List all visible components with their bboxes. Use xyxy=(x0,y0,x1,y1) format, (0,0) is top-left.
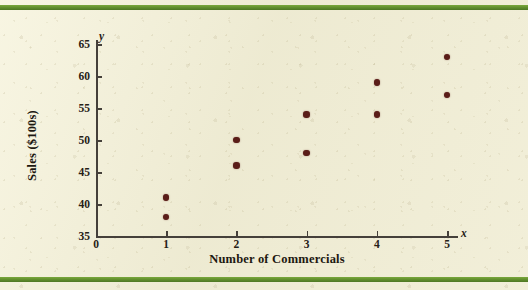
x-axis-line xyxy=(96,236,458,238)
y-tick-mark xyxy=(96,172,102,174)
plot-area: y x Sales ($100s) Number of Commercials … xyxy=(0,0,528,290)
x-tick-mark xyxy=(236,231,238,237)
y-axis-title: Sales ($100s) xyxy=(25,81,40,211)
y-tick-label: 55 xyxy=(56,102,90,114)
x-tick-label: 2 xyxy=(225,238,247,250)
data-point xyxy=(374,79,380,85)
y-tick-label: 50 xyxy=(56,134,90,146)
y-tick-mark xyxy=(96,204,102,206)
x-tick-label: 0 xyxy=(85,238,107,250)
data-point xyxy=(303,111,309,117)
data-point xyxy=(163,194,169,200)
y-tick-mark xyxy=(96,44,102,46)
x-tick-label: 4 xyxy=(366,238,388,250)
data-point xyxy=(303,150,309,156)
y-tick-label: 40 xyxy=(56,198,90,210)
x-tick-label: 1 xyxy=(155,238,177,250)
y-axis-variable-symbol: y xyxy=(99,30,104,42)
data-point xyxy=(163,214,169,220)
data-point xyxy=(233,162,239,168)
data-point xyxy=(444,92,450,98)
y-tick-label: 45 xyxy=(56,166,90,178)
x-axis-title: Number of Commercials xyxy=(96,252,458,267)
x-tick-mark xyxy=(377,231,379,237)
y-tick-label: 65 xyxy=(56,38,90,50)
y-tick-mark xyxy=(96,140,102,142)
x-tick-mark xyxy=(166,231,168,237)
y-tick-label: 60 xyxy=(56,70,90,82)
y-tick-mark xyxy=(96,108,102,110)
y-axis-line xyxy=(96,40,98,237)
x-tick-mark xyxy=(307,231,309,237)
x-tick-label: 3 xyxy=(296,238,318,250)
data-point xyxy=(233,137,239,143)
y-tick-mark xyxy=(96,76,102,78)
x-tick-label: 5 xyxy=(436,238,458,250)
data-point xyxy=(444,54,450,60)
x-tick-mark xyxy=(447,231,449,237)
x-axis-variable-symbol: x xyxy=(461,227,467,239)
scatter-plot-figure: y x Sales ($100s) Number of Commercials … xyxy=(0,0,528,290)
data-point xyxy=(374,111,380,117)
